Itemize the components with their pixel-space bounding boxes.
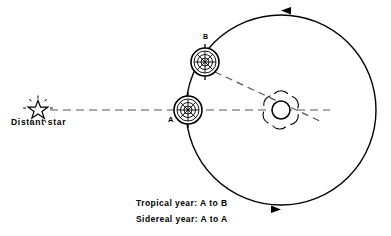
sidereal-year-caption: Sidereal year: A to A (136, 214, 228, 224)
distant-star-label: Distant star (11, 118, 66, 127)
tropical-year-caption: Tropical year: A to B (136, 198, 227, 208)
arrow-right-icon (271, 206, 281, 213)
point-b-label: B (203, 33, 208, 40)
sun-icon (263, 91, 298, 129)
planet-b-globe-icon (191, 44, 219, 80)
orbital-year-diagram: Distant star A B Tropical year: A to B S… (0, 0, 391, 236)
arrow-left-icon (281, 7, 291, 14)
point-a-label: A (168, 116, 174, 124)
planet-a-globe-icon (174, 92, 202, 128)
